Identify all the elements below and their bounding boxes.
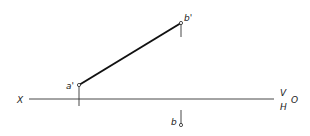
point-label-a-prime: a' [66,81,74,91]
point-b-prime [179,21,182,24]
projection-diagram: X O V H a' b' b [0,0,310,136]
segment-a-prime-b-prime [79,23,181,85]
point-label-b: b [171,117,177,127]
point-label-b-prime: b' [184,13,192,23]
axis-label-o: O [291,95,298,105]
plane-label-h: H [280,102,287,112]
point-a-prime [77,83,80,86]
plane-label-v: V [280,88,287,98]
point-b [179,123,182,126]
axis-label-x: X [16,95,24,105]
